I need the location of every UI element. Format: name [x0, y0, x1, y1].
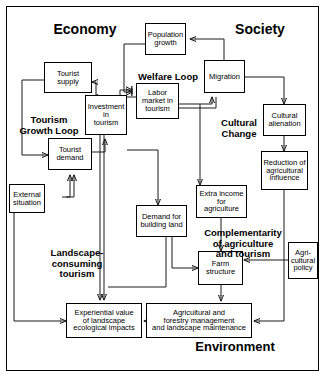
- edge-investment-to-buildingland: [127, 150, 158, 205]
- node-population-growth[interactable]: Population growth: [145, 23, 186, 55]
- group-label-society: Society: [210, 22, 310, 37]
- group-label-economy: Economy: [30, 22, 140, 37]
- group-label-welfare-loop: Welfare Loop: [125, 62, 211, 83]
- node-experiential-value[interactable]: Experiential value of landscape ecologic…: [66, 303, 142, 338]
- node-agricultural-forestry-management[interactable]: Agricultural and forestry management and…: [146, 303, 252, 338]
- node-reduction-agricultural-influence[interactable]: Reduction of agricultural influence: [261, 151, 308, 190]
- group-label-environment: Environment: [175, 340, 295, 354]
- edge-migration-to-population: [190, 39, 224, 60]
- node-tourist-demand[interactable]: Tourist demand: [48, 138, 92, 170]
- edge-investment-to-supply: [92, 82, 96, 95]
- node-labor-market-in-tourism[interactable]: Labor market in tourism: [136, 83, 179, 119]
- edge-migration-to-alienation: [245, 77, 284, 104]
- node-external-situation[interactable]: External situation: [9, 184, 45, 213]
- edge-demand-to-investment: [92, 139, 105, 152]
- group-label-tourism-growth-loop: Tourism Growth Loop: [8, 105, 90, 136]
- group-label-landscape-consuming-tourism: Landscape- consuming tourism: [35, 238, 119, 279]
- edge-migration-to-labor-2: [178, 97, 216, 108]
- node-tourist-supply[interactable]: Tourist supply: [44, 62, 92, 93]
- node-extra-income-for-agriculture[interactable]: Extra income for agriculture: [196, 185, 247, 218]
- diagram-canvas: Economy Society Environment Welfare Loop…: [0, 0, 327, 379]
- node-demand-for-building-land[interactable]: Demand for building land: [136, 205, 187, 237]
- group-label-cultural-change: Cultural Change: [206, 108, 272, 139]
- group-label-complementarity: Complementarity of agriculture and touri…: [184, 218, 302, 259]
- node-investment-in-tourism[interactable]: Investment in tourism: [85, 95, 127, 135]
- edge-external-to-demand: [62, 175, 70, 197]
- edge-migration-to-labor: [178, 97, 212, 104]
